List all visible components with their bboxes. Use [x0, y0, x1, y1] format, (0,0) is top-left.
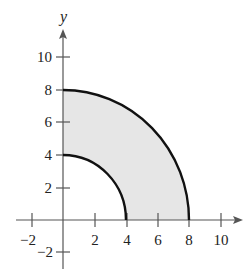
y-axis-label: y: [58, 8, 68, 26]
y-tick-label: 8: [45, 82, 53, 98]
x-tick-label: 4: [123, 232, 131, 248]
x-tick-label: 8: [185, 232, 193, 248]
x-tick-label: 6: [154, 232, 162, 248]
y-tick-label: −2: [37, 244, 53, 260]
x-tick-label: −2: [20, 232, 36, 248]
y-tick-label: 6: [45, 114, 53, 130]
x-tick-label: 10: [214, 232, 229, 248]
chart: −2 2 4 6 8 10 −2 2 4 6 8 10 y: [0, 0, 245, 269]
y-tick-label: 4: [45, 147, 53, 163]
y-tick-label: 2: [45, 180, 53, 196]
y-tick-label: 10: [37, 49, 52, 65]
x-tick-label: 2: [91, 232, 99, 248]
shaded-region: [63, 90, 189, 220]
